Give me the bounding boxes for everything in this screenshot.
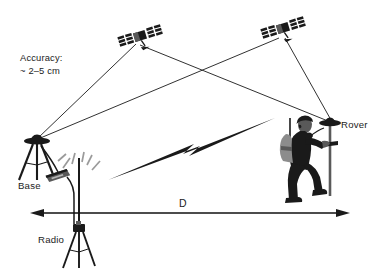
surveyor-front-boot [312,189,327,196]
rtk-survey-diagram: Accuracy: ~ 2–5 cm Base [0,0,381,276]
signal-line-satright-base [38,38,279,139]
signal-line-satright-rover [285,38,331,120]
satellite-icon-left [117,24,165,56]
dimension-arrow-left [30,209,44,217]
radio-head-top [76,221,81,225]
base-station-group [19,135,58,181]
gnss-signal-lines [38,38,331,139]
accuracy-label: Accuracy: [20,52,63,63]
radio-link-lightning-icon [108,118,275,180]
surveyor-rear-boot [285,197,302,203]
surveyor-front-leg [303,163,323,193]
accuracy-value: ~ 2–5 cm [20,65,60,76]
radio-label: Radio [38,234,64,245]
radio-head [73,224,85,232]
distance-label: D [179,197,187,209]
radio-tripod-legs [63,232,95,268]
radio-modem-cable [67,177,74,224]
diagram-canvas: Accuracy: ~ 2–5 cm Base [0,0,381,276]
base-tripod-legs [19,144,54,180]
dimension-arrow-right [336,209,350,217]
satellite-icon-right [260,16,308,48]
rover-label: Rover [341,119,368,130]
surveyor-rear-leg [288,163,307,200]
surveyor-figure-icon [280,116,330,204]
rover-antenna-dome [325,118,335,124]
base-label: Base [18,180,41,191]
